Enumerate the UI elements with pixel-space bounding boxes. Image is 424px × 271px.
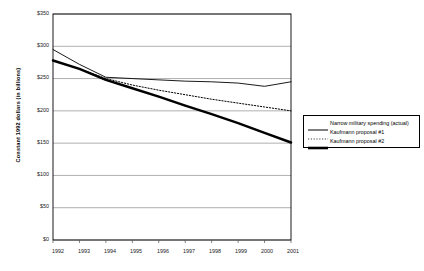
legend-swatch-solid-thick-icon <box>307 138 329 146</box>
legend: Narrow military spending (actual) Kaufma… <box>303 115 420 148</box>
legend-label: Kaufmann proposal #1 <box>329 129 384 136</box>
legend-item-0[interactable]: Narrow military spending (actual) <box>304 119 419 128</box>
legend-item-2[interactable]: Kaufmann proposal #2 <box>304 137 419 146</box>
legend-label: Kaufmann proposal #2 <box>329 138 384 145</box>
legend-label: Narrow military spending (actual) <box>329 120 409 127</box>
series-line-1 <box>53 60 291 110</box>
chart-figure: Constant 1992 dollars (in billions) $350… <box>0 0 424 271</box>
plot-frame <box>53 14 291 240</box>
legend-item-1[interactable]: Kaufmann proposal #1 <box>304 128 419 137</box>
gridlines <box>53 14 291 240</box>
series-lines <box>53 50 291 143</box>
legend-swatch-dotted-icon <box>307 129 329 137</box>
series-line-0 <box>53 50 291 87</box>
series-line-2 <box>53 60 291 142</box>
legend-swatch-solid-thin-icon <box>307 120 329 128</box>
